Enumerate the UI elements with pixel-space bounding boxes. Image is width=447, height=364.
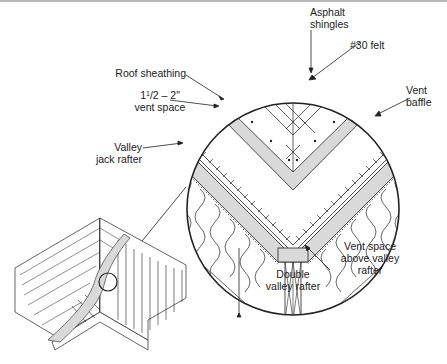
diagram-canvas: [0, 0, 447, 364]
label-line: Double: [255, 268, 331, 280]
label-vent-space-above: Vent space above valley rafter: [335, 240, 405, 276]
label-line: 11/2 – 2": [130, 88, 190, 101]
label-asphalt-shingles: Asphalt shingles: [310, 6, 349, 30]
label-line: shingles: [310, 18, 349, 30]
label-line: valley rafter: [255, 280, 331, 292]
label-line: above valley: [335, 252, 405, 264]
label-vent-space-size: 11/2 – 2" vent space: [130, 88, 190, 113]
fraction-rest: /2 – 2": [150, 89, 180, 101]
label-line: baffle: [406, 96, 432, 108]
label-line: Asphalt: [310, 6, 349, 18]
label-felt: #30 felt: [350, 39, 384, 51]
label-vent-baffle: Vent baffle: [406, 84, 432, 108]
label-double-valley-rafter: Double valley rafter: [255, 268, 331, 292]
roof-sketch: [15, 218, 186, 350]
detail-circle: [170, 95, 410, 330]
label-valley-jack-rafter: Valley: [110, 141, 142, 153]
label-valley-jack-rafter-2: jack rafter: [72, 153, 142, 165]
label-line: Vent space: [335, 240, 405, 252]
label-line: Valley: [110, 141, 142, 153]
label-line: jack rafter: [72, 153, 142, 165]
label-line: rafter: [335, 264, 405, 276]
label-line: vent space: [130, 101, 190, 113]
label-line: Vent: [406, 84, 432, 96]
label-roof-sheathing: Roof sheathing: [108, 67, 186, 79]
